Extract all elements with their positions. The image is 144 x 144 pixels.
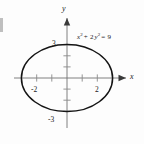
y-axis-label: y	[62, 5, 66, 13]
equation-term2-exponent: 2	[98, 32, 101, 37]
equation-plus-operator: +	[84, 33, 88, 41]
ellipse-figure: y x 3 -3 -2 2 x2+2y2=9	[0, 0, 144, 144]
y-axis-arrowhead	[64, 18, 70, 26]
x-tick-label-neg2: -2	[31, 86, 37, 94]
x-tick-label-2: 2	[95, 86, 99, 94]
equation-term1-exponent: 2	[80, 32, 83, 37]
ellipse-plot-svg	[0, 0, 144, 144]
equation-equals-operator: =	[101, 33, 105, 41]
x-axis-label: x	[130, 73, 134, 81]
y-tick-label-neg3: -3	[48, 116, 54, 124]
equation-right-hand-side: 9	[107, 33, 111, 41]
x-axis-arrowhead	[119, 75, 127, 81]
y-tick-label-3: 3	[52, 40, 56, 48]
equation-term2-coefficient: 2	[90, 33, 94, 41]
equation-annotation: x2+2y2=9	[77, 34, 112, 41]
